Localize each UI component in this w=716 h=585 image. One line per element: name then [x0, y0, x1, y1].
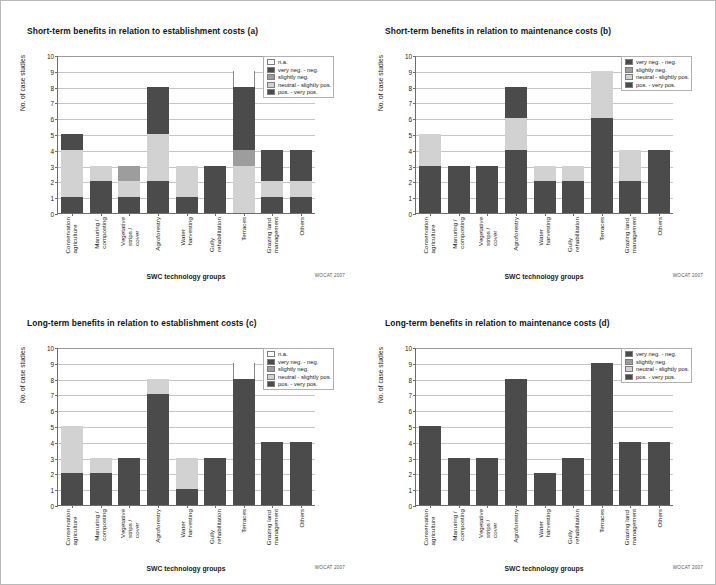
stacked-bar[interactable]: [534, 166, 556, 213]
legend-item: slightly neg.: [625, 67, 689, 73]
y-tick-label: 0: [42, 503, 54, 510]
stacked-bar[interactable]: [619, 150, 641, 213]
legend-swatch-icon: [267, 374, 275, 380]
bar-slot: [416, 56, 445, 213]
stacked-bar[interactable]: [61, 426, 83, 505]
x-axis-label: Others: [644, 217, 673, 273]
x-axis-labels-b: Conservation agricultureManuring / compo…: [415, 217, 673, 273]
stacked-bar[interactable]: [147, 87, 169, 213]
stacked-bar[interactable]: [233, 71, 255, 213]
stacked-bar[interactable]: [61, 134, 83, 213]
stacked-bar[interactable]: [147, 379, 169, 505]
stacked-bar[interactable]: [562, 166, 584, 213]
x-tick-mark: [72, 505, 73, 508]
legend-label: very neg. - neg.: [278, 359, 318, 365]
stacked-bar[interactable]: [648, 150, 670, 213]
stacked-bar[interactable]: [90, 166, 112, 213]
bar-segment-neutral: [619, 150, 641, 182]
stacked-bar[interactable]: [648, 442, 670, 505]
bar-segment-pos: [261, 197, 283, 213]
legend-swatch-icon: [625, 74, 633, 80]
bar-segment-vneg: [233, 87, 255, 150]
stacked-bar[interactable]: [290, 150, 312, 213]
x-axis-label: Grazing land management: [258, 217, 287, 273]
stacked-bar[interactable]: [505, 379, 527, 505]
bar-slot: [416, 348, 445, 505]
x-axis-label: Water harvesting: [530, 509, 559, 565]
bar-slot: [144, 56, 173, 213]
y-axis-label-b: No. of case studies: [377, 55, 384, 111]
legend-item: slightly neg.: [625, 359, 689, 365]
y-tick-label: 1: [42, 195, 54, 202]
legend-item: slightly neg.: [267, 366, 331, 372]
legend-swatch-icon: [267, 59, 275, 65]
x-tick-mark: [244, 505, 245, 508]
legend-label: n.a.: [278, 351, 288, 357]
legend-item: neutral - slightly pos.: [267, 374, 331, 380]
x-tick-mark: [573, 505, 574, 508]
x-tick-mark: [602, 213, 603, 216]
x-axis-label: Others: [644, 509, 673, 565]
x-tick-mark: [272, 505, 273, 508]
bar-slot: [530, 348, 559, 505]
legend-item: pos. - very pos.: [625, 82, 689, 88]
chart-title-b: Short-term benefits in relation to maint…: [385, 26, 715, 36]
legend-item: pos. - very pos.: [625, 374, 689, 380]
x-tick-mark: [215, 213, 216, 216]
stacked-bar[interactable]: [448, 458, 470, 505]
x-tick-mark: [516, 213, 517, 216]
legend-label: very neg. - neg.: [278, 67, 318, 73]
x-tick-mark: [430, 213, 431, 216]
stacked-bar[interactable]: [176, 458, 198, 505]
stacked-bar[interactable]: [591, 71, 613, 213]
stacked-bar[interactable]: [204, 458, 226, 505]
bar-segment-neutral: [61, 426, 83, 473]
stacked-bar[interactable]: [419, 426, 441, 505]
x-axis-label-text: Gully rehabilitation: [208, 217, 222, 252]
legend-d: very neg. - neg.slightly neg.neutral - s…: [621, 348, 692, 383]
stacked-bar[interactable]: [118, 458, 140, 505]
y-tick-label: 0: [400, 211, 412, 218]
stacked-bar[interactable]: [290, 442, 312, 505]
stacked-bar[interactable]: [261, 150, 283, 213]
x-axis-label-text: Agroforestry: [512, 509, 519, 543]
legend-item: very neg. - neg.: [267, 359, 331, 365]
x-axis-label: Terraces: [587, 217, 616, 273]
stacked-bar[interactable]: [118, 166, 140, 213]
stacked-bar[interactable]: [476, 458, 498, 505]
stacked-bar[interactable]: [233, 363, 255, 505]
stacked-bar[interactable]: [204, 166, 226, 213]
stacked-bar[interactable]: [448, 166, 470, 213]
x-axis-label-text: Water harvesting: [537, 217, 551, 246]
bar-segment-neutral: [419, 134, 441, 166]
x-axis-label-text: Water harvesting: [537, 509, 551, 538]
stacked-bar[interactable]: [534, 473, 556, 505]
x-axis-label: Gully rehabilitation: [558, 217, 587, 273]
stacked-bar[interactable]: [591, 363, 613, 505]
legend-swatch-icon: [625, 351, 633, 357]
x-axis-title-d: SWC technology groups: [415, 565, 673, 572]
stacked-bar[interactable]: [90, 458, 112, 505]
bar-slot: [473, 56, 502, 213]
x-axis-label: Agroforestry: [143, 217, 172, 273]
x-axis-label: Conservation agriculture: [415, 509, 444, 565]
stacked-bar[interactable]: [562, 458, 584, 505]
bar-segment-pos: [147, 181, 169, 213]
stacked-bar[interactable]: [476, 166, 498, 213]
x-axis-label-text: Water harvesting: [179, 509, 193, 538]
stacked-bar[interactable]: [176, 166, 198, 213]
legend-item: very neg. - neg.: [625, 59, 689, 65]
chart-title-a: Short-term benefits in relation to estab…: [27, 26, 357, 36]
stacked-bar[interactable]: [419, 134, 441, 213]
y-tick-mark: [55, 214, 58, 215]
stacked-bar[interactable]: [261, 442, 283, 505]
y-tick-label: 3: [42, 455, 54, 462]
stacked-bar[interactable]: [619, 442, 641, 505]
x-tick-mark: [545, 505, 546, 508]
x-axis-labels-c: Conservation agricultureManuring / compo…: [57, 509, 315, 565]
bar-slot: [587, 348, 616, 505]
bar-slot: [201, 56, 230, 213]
stacked-bar[interactable]: [505, 87, 527, 213]
bar-segment-neutral: [147, 134, 169, 181]
bar-segment-pos: [619, 181, 641, 213]
